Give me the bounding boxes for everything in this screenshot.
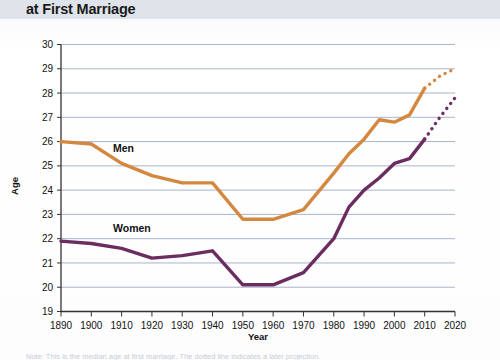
series-projection-women	[425, 98, 455, 139]
y-tick-label: 26	[42, 136, 54, 147]
y-tick-label: 19	[42, 306, 54, 317]
y-axis-title: Age	[9, 177, 20, 195]
y-tick-label: 29	[42, 63, 54, 74]
x-tick-label: 1970	[292, 320, 315, 331]
x-axis-ticks: 1890190019101920193019401950196019701980…	[50, 312, 467, 331]
data-series	[61, 69, 455, 285]
x-tick-label: 1890	[50, 320, 73, 331]
y-tick-label: 25	[42, 160, 54, 171]
y-axis-ticks: 302928272625242322212019	[42, 39, 61, 317]
series-label-women: Women	[113, 222, 151, 234]
x-tick-label: 2010	[414, 320, 437, 331]
gridlines	[61, 45, 455, 312]
x-tick-label: 2000	[383, 320, 406, 331]
line-chart: 302928272625242322212019 189019001910192…	[0, 0, 500, 360]
x-tick-label: 1920	[141, 320, 164, 331]
y-tick-label: 23	[42, 209, 54, 220]
chart-figure: at First Marriage 3029282726252423222120…	[0, 0, 500, 360]
y-tick-label: 27	[42, 112, 54, 123]
footnote: Note: This is the median age at first ma…	[26, 352, 476, 360]
x-tick-label: 1990	[353, 320, 376, 331]
x-tick-label: 1940	[201, 320, 224, 331]
y-tick-label: 20	[42, 282, 54, 293]
y-tick-label: 30	[42, 39, 54, 50]
x-tick-label: 1960	[262, 320, 285, 331]
x-tick-label: 1950	[232, 320, 255, 331]
x-tick-label: 1900	[80, 320, 103, 331]
x-axis-title: Year	[248, 331, 268, 342]
x-tick-label: 2020	[444, 320, 467, 331]
x-tick-label: 1930	[171, 320, 194, 331]
y-tick-label: 22	[42, 233, 54, 244]
x-tick-label: 1910	[110, 320, 133, 331]
y-tick-label: 24	[42, 185, 54, 196]
y-tick-label: 28	[42, 88, 54, 99]
series-label-men: Men	[113, 142, 134, 154]
y-tick-label: 21	[42, 258, 54, 269]
x-tick-label: 1980	[323, 320, 346, 331]
series-projection-men	[425, 69, 455, 88]
